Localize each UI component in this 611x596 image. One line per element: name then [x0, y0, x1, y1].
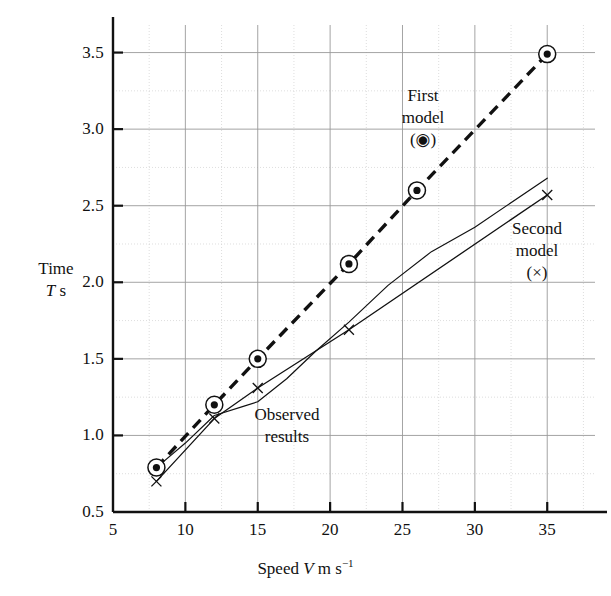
y-tick-label: 1.5 [52, 349, 104, 369]
y-tick-label: 0.5 [52, 502, 104, 522]
x-axis-title: Speed V m s−1 [0, 556, 611, 580]
annotation-second-model: Second model (×) [478, 218, 596, 284]
x-axis-title-symbol: V [303, 559, 313, 578]
annotation-first-model-line2: model [402, 108, 445, 127]
annotation-observed-results-line1: Observed [254, 405, 319, 424]
y-axis-title-symbol: T [46, 281, 55, 300]
x-tick-label: 25 [394, 520, 411, 540]
x-tick-label: 20 [321, 520, 338, 540]
y-tick-label: 3.5 [52, 43, 104, 63]
x-tick-label: 35 [539, 520, 556, 540]
y-axis-title: Time T s [24, 258, 88, 303]
x-tick-label: 5 [109, 520, 118, 540]
y-axis-title-unit: s [55, 281, 66, 300]
y-tick-label: 3.0 [52, 119, 104, 139]
x-axis-title-pre: Speed [257, 559, 303, 578]
chart-figure: 0.51.01.52.02.53.03.5 5101520253035 Time… [0, 0, 611, 596]
y-tick-label: 2.5 [52, 196, 104, 216]
y-axis-title-line1: Time [38, 259, 73, 278]
annotation-observed-results: Observed results [222, 404, 352, 448]
annotation-second-model-line1: Second [512, 219, 562, 238]
x-tick-label: 10 [177, 520, 194, 540]
annotation-first-model-line1: First [407, 86, 438, 105]
annotation-second-model-line2: model [516, 241, 559, 260]
y-tick-label: 1.0 [52, 425, 104, 445]
annotation-observed-results-line2: results [265, 427, 309, 446]
annotation-second-model-marker: (×) [527, 263, 548, 282]
annotation-first-model-marker: (◉) [410, 130, 436, 149]
x-tick-label: 30 [466, 520, 483, 540]
x-axis-title-exponent: −1 [342, 557, 354, 569]
x-tick-label: 15 [249, 520, 266, 540]
annotation-first-model: First model (◉) [368, 85, 478, 151]
x-axis-title-unit: m s [314, 559, 342, 578]
